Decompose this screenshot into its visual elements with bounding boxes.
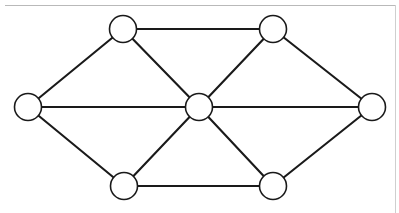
graph-node-bottom-left[interactable]: [111, 173, 138, 200]
graph-node-circle-right[interactable]: [359, 94, 386, 121]
graph-node-circle-center[interactable]: [186, 94, 213, 121]
graph-edge-left-top-left[interactable]: [28, 29, 123, 107]
graph-node-circle-bottom-left[interactable]: [111, 173, 138, 200]
graph-node-right[interactable]: [359, 94, 386, 121]
graph-edge-bottom-right-right[interactable]: [273, 107, 372, 186]
graph-node-top-right[interactable]: [260, 16, 287, 43]
graph-edge-top-right-center[interactable]: [199, 29, 273, 107]
graph-node-circle-top-right[interactable]: [260, 16, 287, 43]
graph-edge-left-bottom-left[interactable]: [28, 107, 124, 186]
graph-edge-center-bottom-left[interactable]: [124, 107, 199, 186]
graph-node-circle-bottom-right[interactable]: [260, 173, 287, 200]
graph-edge-top-right-right[interactable]: [273, 29, 372, 107]
graph-node-bottom-right[interactable]: [260, 173, 287, 200]
graph-node-circle-top-left[interactable]: [110, 16, 137, 43]
graph-edge-top-left-center[interactable]: [123, 29, 199, 107]
graph-canvas: [0, 0, 399, 213]
graph-figure: [0, 0, 399, 213]
graph-edge-center-bottom-right[interactable]: [199, 107, 273, 186]
graph-node-circle-left[interactable]: [15, 94, 42, 121]
graph-node-center[interactable]: [186, 94, 213, 121]
graph-node-top-left[interactable]: [110, 16, 137, 43]
graph-node-left[interactable]: [15, 94, 42, 121]
